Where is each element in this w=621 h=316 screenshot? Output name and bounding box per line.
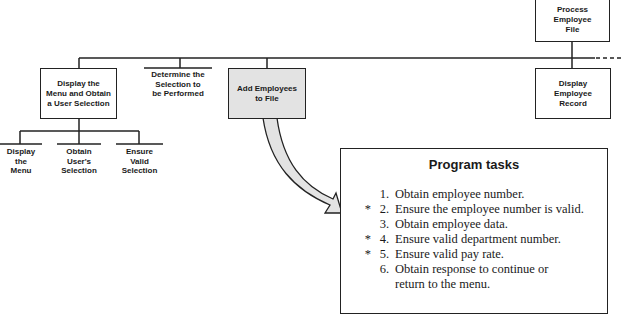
node-ensure-valid-selection: Ensure Valid Selection [116,147,163,176]
node-label: Add Employees to File [237,84,297,104]
node-label: Process Employee File [554,5,592,35]
node-obtain-selection: Obtain User's Selection [57,147,101,176]
task-item: *5.Ensure valid pay rate. [357,247,504,262]
node-process-employee-file: Process Employee File [535,0,610,42]
task-item: 1.Obtain employee number. [357,187,524,202]
node-display-the-menu: Display the Menu [0,147,42,176]
arrow-icon [263,118,342,213]
task-item: *4.Ensure valid department number. [357,232,561,247]
node-display-employee-record: Display Employee Record [535,68,611,119]
node-add-employees: Add Employees to File [228,68,306,119]
node-label: Display the Menu and Obtain a User Selec… [46,79,111,109]
task-item: return to the menu. [357,277,490,292]
panel-title: Program tasks [341,157,607,172]
task-item: *2.Ensure the employee number is valid. [357,202,584,217]
node-label: Display Employee Record [554,79,592,109]
task-item: 6.Obtain response to continue or [357,262,548,277]
task-item: 3.Obtain employee data. [357,217,508,232]
program-tasks-panel: Program tasks 1.Obtain employee number. … [340,148,608,314]
node-determine-selection: Determine the Selection to be Performed [144,70,212,99]
node-display-menu: Display the Menu and Obtain a User Selec… [40,68,117,119]
